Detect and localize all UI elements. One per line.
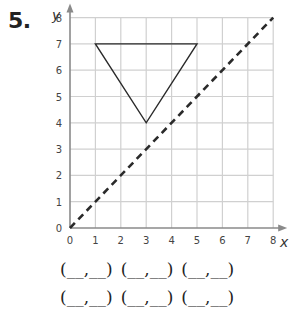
- x-tick-label: 3: [143, 235, 149, 246]
- x-tick-label: 6: [219, 235, 225, 246]
- answer-row-2: (__,__) (__,__) (__,__): [60, 283, 290, 311]
- answer-blank[interactable]: (__,__): [60, 259, 113, 279]
- coordinate-grid: 012345678012345678 x y: [0, 0, 294, 255]
- y-axis-label: y: [51, 7, 61, 23]
- x-tick-label: 8: [270, 235, 276, 246]
- answer-blank[interactable]: (__,__): [121, 287, 174, 307]
- answer-row-1: (__,__) (__,__) (__,__): [60, 255, 290, 283]
- x-tick-label: 0: [67, 235, 73, 246]
- x-tick-label: 4: [168, 235, 174, 246]
- answer-blank[interactable]: (__,__): [181, 259, 234, 279]
- answer-blanks: (__,__) (__,__) (__,__) (__,__) (__,__) …: [60, 255, 290, 311]
- x-axis-arrow-icon: [278, 225, 287, 232]
- x-tick-label: 7: [245, 235, 251, 246]
- y-tick-label: 5: [56, 92, 62, 103]
- answer-blank[interactable]: (__,__): [121, 259, 174, 279]
- y-tick-label: 7: [56, 39, 62, 50]
- y-tick-label: 1: [56, 197, 62, 208]
- y-tick-label: 0: [56, 223, 62, 234]
- y-tick-label: 6: [56, 65, 62, 76]
- answer-blank[interactable]: (__,__): [60, 287, 113, 307]
- x-tick-label: 1: [92, 235, 98, 246]
- y-tick-label: 2: [56, 170, 62, 181]
- x-tick-label: 5: [194, 235, 200, 246]
- y-axis-arrow-icon: [67, 4, 74, 13]
- y-tick-label: 3: [56, 144, 62, 155]
- x-axis-label: x: [279, 234, 289, 250]
- y-tick-label: 4: [56, 118, 62, 129]
- answer-blank[interactable]: (__,__): [181, 287, 234, 307]
- x-tick-label: 2: [118, 235, 124, 246]
